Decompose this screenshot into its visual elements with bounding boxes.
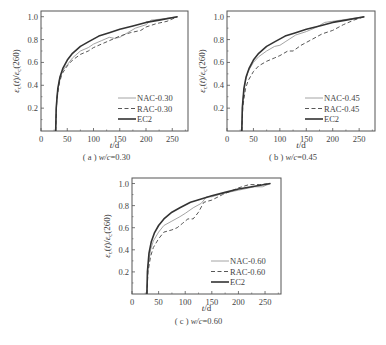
- x-tick-label: 250: [166, 134, 179, 144]
- y-tick-label: 0.6: [118, 223, 129, 233]
- y-axis-label: εc(t)/εc(260): [197, 49, 208, 92]
- x-tick-label: 100: [273, 134, 286, 144]
- x-tick-label: 100: [87, 134, 100, 144]
- x-tick-label: 50: [249, 134, 258, 144]
- plot-frame: [132, 178, 281, 294]
- x-tick-label: 100: [179, 297, 192, 307]
- y-tick-label: 1.0: [213, 12, 224, 22]
- x-axis-label: t/d: [110, 140, 120, 150]
- x-axis-label: t/d: [202, 303, 212, 313]
- series-rac-0-60: [147, 184, 271, 295]
- y-tick-label: 0.8: [118, 201, 129, 211]
- legend-label: RAC-0.30: [137, 104, 172, 114]
- series-rac-0-30: [56, 17, 178, 131]
- series-nac-0-60: [147, 184, 271, 295]
- legend-label: EC2: [230, 277, 245, 287]
- series-ec2: [242, 17, 365, 131]
- y-tick-label: 0.4: [213, 80, 224, 90]
- series-rac-0-45: [242, 17, 365, 131]
- y-tick-label: 0.6: [27, 57, 38, 67]
- y-axis-label: εc(t)/εc(260): [11, 49, 22, 92]
- y-tick-label: 0.4: [118, 245, 129, 255]
- y-tick-label: 0.2: [118, 267, 129, 277]
- legend-label: EC2: [137, 114, 152, 124]
- x-tick-label: 200: [326, 134, 339, 144]
- y-tick-label: 0.6: [213, 57, 224, 67]
- x-tick-label: 0: [225, 134, 229, 144]
- x-tick-label: 250: [353, 134, 366, 144]
- panel-caption: ( b ) w/c=0.45: [269, 152, 317, 162]
- legend-label: RAC-0.60: [230, 267, 265, 277]
- y-tick-label: 0.8: [27, 35, 38, 45]
- series-nac-0-30: [56, 17, 178, 131]
- series-ec2: [56, 17, 178, 131]
- y-tick-label: 0.4: [27, 80, 38, 90]
- figure-panels: 0501001502002500.20.40.60.81.0εc(t)/εc(2…: [0, 0, 386, 345]
- panel-caption: ( c ) w/c=0.60: [175, 316, 222, 326]
- y-axis-label: εc(t)/εc(260): [102, 214, 113, 257]
- legend-label: NAC-0.45: [324, 93, 360, 103]
- legend-label: RAC-0.45: [324, 104, 359, 114]
- legend-label: NAC-0.30: [137, 93, 173, 103]
- x-tick-label: 50: [154, 297, 163, 307]
- y-tick-label: 1.0: [27, 12, 38, 22]
- legend-label: EC2: [324, 114, 339, 124]
- series-nac-0-45: [242, 17, 365, 131]
- x-tick-label: 0: [39, 134, 43, 144]
- x-tick-label: 50: [63, 134, 72, 144]
- y-tick-label: 0.8: [213, 35, 224, 45]
- chart-panel-b: 0501001502002500.20.40.60.81.0εc(t)/εc(2…: [197, 11, 375, 162]
- series-ec2: [147, 184, 271, 295]
- x-tick-label: 200: [140, 134, 153, 144]
- y-tick-label: 0.2: [27, 103, 38, 113]
- x-tick-label: 250: [259, 297, 272, 307]
- y-tick-label: 1.0: [118, 179, 129, 189]
- x-tick-label: 0: [130, 297, 134, 307]
- chart-panel-a: 0501001502002500.20.40.60.81.0εc(t)/εc(2…: [11, 11, 188, 162]
- chart-panel-c: 0501001502002500.20.40.60.81.0εc(t)/εc(2…: [102, 178, 281, 326]
- legend-label: NAC-0.60: [230, 256, 266, 266]
- x-axis-label: t/d: [296, 140, 306, 150]
- y-tick-label: 0.2: [213, 103, 224, 113]
- panel-caption: ( a ) w/c=0.30: [83, 152, 130, 162]
- x-tick-label: 200: [232, 297, 245, 307]
